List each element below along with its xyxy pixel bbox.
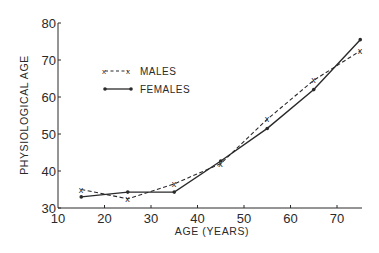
series-line: [81, 40, 360, 197]
x-tick-label: 60: [283, 211, 297, 226]
legend: x x MALES FEMALES: [102, 66, 190, 95]
y-tick-label: 60: [42, 90, 56, 105]
dot-marker-icon: [312, 88, 316, 92]
x-tick-label: 40: [190, 211, 204, 226]
dot-marker-icon: [219, 159, 223, 163]
x-marker-icon: x: [358, 46, 363, 56]
y-tick-label: 80: [42, 16, 56, 31]
legend-label-males: MALES: [140, 66, 176, 77]
y-tick-label: 40: [42, 164, 56, 179]
x-marker-icon: x: [125, 194, 130, 204]
x-tick-label: 50: [237, 211, 251, 226]
x-marker-icon: x: [311, 75, 316, 85]
y-tick-label: 70: [42, 53, 56, 68]
x-tick-label: 20: [97, 211, 111, 226]
x-tick-label: 70: [330, 211, 344, 226]
dot-marker-icon: [265, 127, 269, 131]
series-females: [79, 38, 362, 199]
x-tick-label: 30: [144, 211, 158, 226]
legend-label-females: FEMALES: [140, 84, 190, 95]
x-marker-icon: x: [79, 185, 84, 195]
dot-marker-icon: [129, 87, 133, 91]
y-tick-label: 50: [42, 127, 56, 142]
legend-item-males: x x MALES: [102, 66, 176, 77]
x-marker-icon: x: [172, 179, 177, 189]
axes: 30405060708010203040506070: [42, 16, 362, 226]
x-marker-icon: x: [126, 67, 131, 76]
x-axis-title: AGE (YEARS): [175, 225, 249, 237]
x-tick-label: 10: [51, 211, 65, 226]
x-marker-icon: x: [102, 67, 107, 76]
line-chart: 30405060708010203040506070 xxxxxxx x x M…: [0, 0, 379, 253]
dot-marker-icon: [79, 195, 83, 199]
dot-marker-icon: [358, 38, 362, 42]
x-marker-icon: x: [265, 114, 270, 124]
series-line: [81, 51, 360, 199]
y-axis-title: PHYSIOLOGICAL AGE: [18, 55, 30, 175]
dot-marker-icon: [126, 190, 130, 194]
dot-marker-icon: [103, 87, 107, 91]
series-layer: xxxxxxx: [79, 38, 363, 204]
dot-marker-icon: [172, 190, 176, 194]
legend-item-females: FEMALES: [103, 84, 190, 95]
series-males: xxxxxxx: [79, 46, 363, 204]
